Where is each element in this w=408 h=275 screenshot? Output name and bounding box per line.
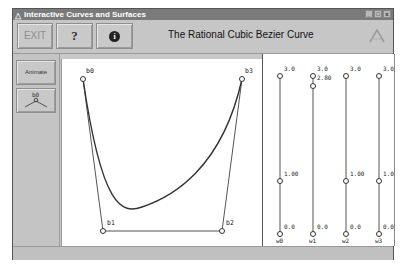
close-button[interactable]: x xyxy=(383,10,391,18)
svg-text:0.0: 0.0 xyxy=(383,223,394,230)
left-panel: Animate b0 xyxy=(13,54,60,246)
slider-handle-w0 xyxy=(278,179,283,184)
svg-text:2.80: 2.80 xyxy=(317,74,332,81)
svg-text:3.0: 3.0 xyxy=(383,65,394,72)
weight-slider-w2[interactable]: 3.0 1.00 0.0 w2 xyxy=(342,65,365,244)
maximize-button[interactable]: □ xyxy=(374,10,382,18)
info-button[interactable]: i xyxy=(96,23,133,49)
exit-button[interactable]: EXIT xyxy=(17,23,53,49)
slider-handle-w1 xyxy=(311,84,316,89)
bezier-curve xyxy=(83,79,242,209)
info-icon: i xyxy=(109,31,120,42)
weight-slider-w3[interactable]: 3.0 1.00 0.0 w3 xyxy=(375,65,394,244)
control-polygon xyxy=(83,79,242,231)
svg-text:b2: b2 xyxy=(226,219,234,227)
svg-text:b0: b0 xyxy=(86,67,94,75)
svg-text:1.00: 1.00 xyxy=(284,170,299,177)
control-point-b0[interactable]: b0 xyxy=(81,67,94,82)
help-button[interactable]: ? xyxy=(56,23,93,49)
status-bar xyxy=(13,246,393,260)
control-point-b2[interactable]: b2 xyxy=(220,219,234,234)
svg-text:1.00: 1.00 xyxy=(383,170,394,177)
app-window: △ Interactive Curves and Surfaces _ □ x … xyxy=(12,8,394,260)
svg-text:w0: w0 xyxy=(276,237,284,244)
page-title: The Rational Cubic Bezier Curve xyxy=(168,29,314,40)
svg-text:b1: b1 xyxy=(107,219,115,227)
svg-text:0.0: 0.0 xyxy=(284,223,295,230)
toolbar: EXIT ? i The Rational Cubic Bezier Curve xyxy=(13,20,393,54)
svg-text:w3: w3 xyxy=(375,237,383,244)
svg-text:w1: w1 xyxy=(309,237,317,244)
curve-canvas[interactable]: b0 b1 b2 b3 xyxy=(61,59,262,246)
svg-text:b0: b0 xyxy=(32,91,40,98)
svg-text:b3: b3 xyxy=(245,67,253,75)
control-point-button[interactable]: b0 xyxy=(16,88,56,113)
minimize-button[interactable]: _ xyxy=(365,10,373,18)
animate-button[interactable]: Animate xyxy=(16,60,56,85)
window-title: Interactive Curves and Surfaces xyxy=(24,9,146,20)
svg-text:w2: w2 xyxy=(342,237,350,244)
svg-text:0.0: 0.0 xyxy=(317,223,328,230)
slider-handle-w2 xyxy=(344,179,349,184)
control-point-b3[interactable]: b3 xyxy=(240,67,253,82)
svg-text:3.0: 3.0 xyxy=(350,65,361,72)
triangle-logo-icon xyxy=(368,28,386,44)
svg-text:3.0: 3.0 xyxy=(317,65,328,72)
title-bar[interactable]: △ Interactive Curves and Surfaces _ □ x xyxy=(13,9,393,20)
weights-panel: 3.0 1.00 0.0 w0 3.0 2.80 0.0 w1 xyxy=(262,54,395,246)
weight-slider-w1[interactable]: 3.0 2.80 0.0 w1 xyxy=(309,65,332,244)
weight-slider-w0[interactable]: 3.0 1.00 0.0 w0 xyxy=(276,65,299,244)
svg-text:0.0: 0.0 xyxy=(350,223,361,230)
control-point-icon: b0 xyxy=(17,89,55,112)
svg-text:1.00: 1.00 xyxy=(350,170,365,177)
slider-handle-w3 xyxy=(377,179,382,184)
svg-text:3.0: 3.0 xyxy=(284,65,295,72)
